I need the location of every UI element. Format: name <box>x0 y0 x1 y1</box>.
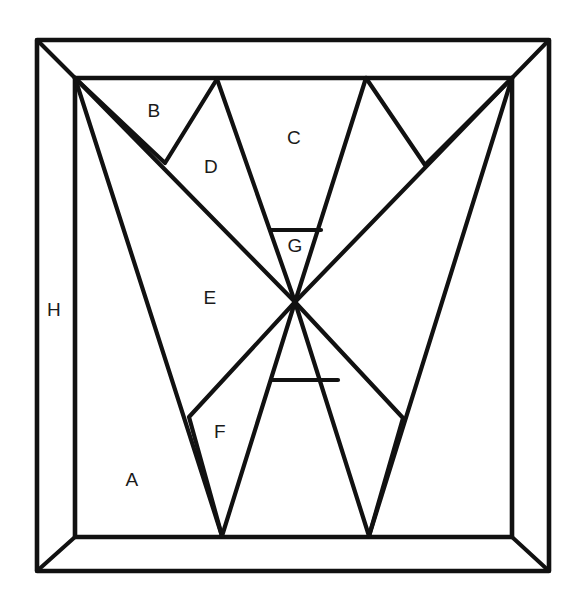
region-label-h: H <box>47 299 61 320</box>
region-label-d: D <box>204 156 218 177</box>
region-label-g: G <box>287 235 302 256</box>
region-label-a: A <box>126 469 139 490</box>
region-label-c: C <box>287 127 301 148</box>
diagram-root: A B C D E F G H <box>0 0 580 613</box>
region-label-f: F <box>214 421 226 442</box>
region-label-e: E <box>204 287 217 308</box>
quilt-block-diagram: A B C D E F G H <box>0 0 580 613</box>
region-label-b: B <box>148 100 161 121</box>
